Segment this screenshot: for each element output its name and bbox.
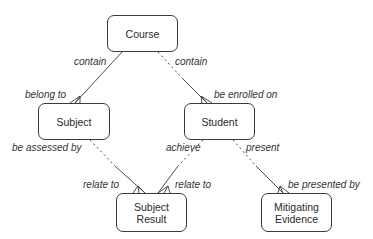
label-be-presented-by: be presented by	[288, 179, 360, 190]
label-present: present	[246, 142, 279, 153]
entity-subject[interactable]: Subject	[38, 103, 110, 140]
label-relate-to-right: relate to	[175, 179, 211, 190]
entity-course-label: Course	[126, 28, 160, 40]
entity-student-label: Student	[201, 116, 237, 128]
entity-mitigating-evidence[interactable]: Mitigating Evidence	[261, 193, 332, 232]
entity-subject-result-line2: Result	[137, 213, 167, 225]
label-belong-to: belong to	[25, 89, 66, 100]
line-subject-result-dashed	[90, 140, 115, 166]
entity-subject-result-line1: Subject	[134, 201, 169, 213]
entity-student[interactable]: Student	[184, 103, 255, 140]
entity-subject-label: Subject	[56, 116, 91, 128]
crowfoot-result-right	[158, 186, 170, 193]
label-course-contain-left: contain	[74, 56, 106, 67]
label-course-contain-right: contain	[175, 56, 207, 67]
label-achieve: achieve	[166, 142, 200, 153]
entity-mitigating-evidence-line2: Evidence	[275, 213, 318, 225]
entity-subject-result[interactable]: Subject Result	[116, 193, 187, 232]
label-relate-to-left: relate to	[83, 179, 119, 190]
entity-course[interactable]: Course	[107, 15, 178, 52]
entity-mitigating-evidence-line1: Mitigating	[274, 201, 319, 213]
label-be-assessed-by: be assessed by	[12, 142, 82, 153]
crowfoot-student	[201, 96, 212, 103]
label-be-enrolled-on: be enrolled on	[214, 89, 277, 100]
